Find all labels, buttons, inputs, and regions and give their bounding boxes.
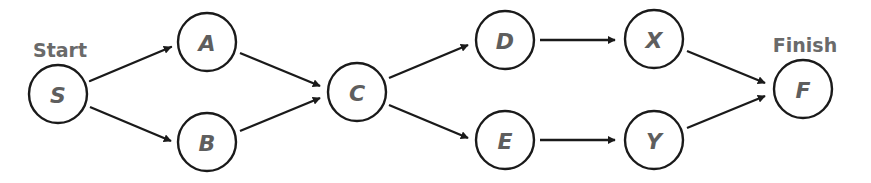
node-e: E: [476, 111, 534, 169]
node-b-label: B: [199, 131, 216, 156]
edge-c-d: [389, 45, 468, 78]
node-s: S: [29, 65, 87, 123]
edge-y-f: [687, 96, 765, 128]
node-f-label: F: [795, 78, 810, 103]
edge-a-c: [240, 53, 320, 86]
node-y-label: Y: [646, 129, 664, 154]
edge-b-c: [240, 98, 320, 131]
node-e-label: E: [497, 129, 512, 154]
node-d-label: D: [496, 29, 514, 54]
edge-c-e: [389, 105, 468, 138]
finish-label: Finish: [773, 34, 837, 56]
node-c-label: C: [349, 81, 365, 106]
edge-x-f: [687, 51, 765, 83]
node-y: Y: [625, 111, 683, 169]
node-b: B: [178, 113, 236, 171]
start-label: Start: [33, 39, 87, 61]
node-a: A: [178, 13, 236, 71]
node-d: D: [476, 11, 534, 69]
node-x-label: X: [644, 28, 664, 53]
node-a-label: A: [196, 31, 215, 56]
node-s-label: S: [50, 83, 66, 108]
node-x: X: [625, 10, 683, 68]
node-c: C: [328, 63, 386, 121]
edge-s-b: [90, 107, 171, 141]
edge-s-a: [90, 47, 171, 81]
node-f: F: [774, 60, 832, 118]
network-diagram: Start Finish S A B C D E X Y F: [0, 0, 871, 183]
